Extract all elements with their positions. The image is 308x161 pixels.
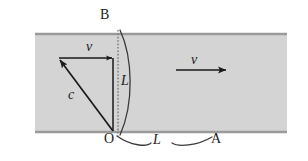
length-l-horizontal-label: L (153, 133, 161, 147)
point-label-o: O (104, 132, 114, 146)
vector-c-label: c (68, 88, 74, 102)
point-label-b: B (100, 8, 109, 22)
length-l-vertical-label: L (121, 74, 129, 88)
physics-diagram: B O A v c L L v (0, 0, 308, 161)
medium-band (35, 33, 287, 133)
horizontal-length-brace-right (172, 137, 212, 145)
flow-velocity-label: v (191, 53, 197, 67)
horizontal-length-brace (117, 136, 151, 145)
point-label-a: A (211, 132, 221, 146)
vector-v-label: v (86, 40, 92, 54)
